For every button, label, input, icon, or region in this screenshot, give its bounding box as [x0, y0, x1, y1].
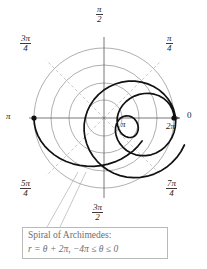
angular-label-3pi-over-4: 3π 4 [20, 34, 31, 53]
angular-label-5pi-over-4: 5π 4 [20, 179, 31, 198]
angular-label-3pi-over-2: 3π 2 [92, 203, 103, 222]
caption-box: Spiral of Archimedes: r = θ + 2π, −4π ≤ … [22, 227, 168, 259]
angular-label-7pi-over-4: 7π 4 [166, 179, 177, 198]
grid-ray-135 [47, 61, 105, 119]
grid-ray-315 [104, 118, 162, 176]
angular-label-pi-over-4: π 4 [166, 34, 173, 53]
caption-title: Spiral of Archimedes: [28, 230, 162, 242]
grid-ray-45 [104, 61, 162, 119]
two-pi-point-marker [171, 115, 176, 120]
angular-label-pi-over-2-den: 2 [96, 15, 103, 24]
spiral-curve-group [34, 81, 184, 178]
angular-label-5pi-over-4-den: 4 [20, 189, 31, 198]
angular-label-pi-over-4-den: 4 [166, 44, 173, 53]
axis-label-pi-left: π [6, 111, 11, 121]
pi-point-marker [31, 115, 36, 120]
angular-label-7pi-over-4-den: 4 [166, 189, 177, 198]
angular-label-3pi-over-2-den: 2 [92, 213, 103, 222]
angular-label-3pi-over-4-den: 4 [20, 44, 31, 53]
axis-label-pi-inner: π [121, 119, 126, 129]
axis-label-two-pi: 2π [166, 121, 175, 131]
caption-equation: r = θ + 2π, −4π ≤ θ ≤ 0 [28, 243, 162, 255]
caption-leader-lines [47, 172, 86, 227]
angular-label-pi-over-2: π 2 [96, 5, 103, 24]
axis-label-zero-right: 0 [187, 110, 192, 120]
